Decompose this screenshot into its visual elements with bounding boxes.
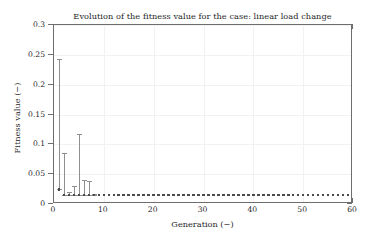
errorbar-cap: [62, 153, 67, 154]
data-marker: [322, 194, 325, 197]
data-marker: [177, 194, 180, 197]
data-marker: [307, 194, 310, 197]
x-tick-mark-top: [352, 24, 353, 29]
data-marker: [262, 194, 265, 197]
data-marker: [347, 194, 350, 197]
data-marker: [212, 194, 215, 197]
x-tick-label: 60: [337, 205, 367, 214]
x-tick-label: 30: [188, 205, 218, 214]
data-marker: [122, 194, 125, 197]
data-marker: [227, 194, 230, 197]
data-marker: [147, 194, 150, 197]
gridline-horizontal: [54, 115, 351, 116]
y-tick-label: 0.15: [5, 109, 45, 118]
data-marker: [237, 194, 240, 197]
data-marker: [222, 194, 225, 197]
data-marker: [167, 194, 170, 197]
plot-area: [53, 24, 352, 203]
x-tick-label: 40: [237, 205, 267, 214]
data-marker: [58, 188, 61, 191]
errorbar-cap: [57, 59, 62, 60]
data-marker: [282, 194, 285, 197]
data-marker: [103, 194, 106, 197]
x-tick-mark: [352, 198, 353, 203]
data-marker: [337, 194, 340, 197]
x-tick-label: 20: [138, 205, 168, 214]
data-marker: [108, 194, 111, 197]
data-marker: [327, 194, 330, 197]
data-marker: [83, 194, 86, 197]
data-marker: [232, 194, 235, 197]
y-tick-mark: [48, 203, 53, 204]
gridline-horizontal: [54, 144, 351, 145]
data-marker: [113, 194, 116, 197]
y-tick-label: 0.2: [5, 79, 45, 88]
gridline-vertical: [154, 25, 155, 202]
data-marker: [272, 194, 275, 197]
data-marker: [207, 194, 210, 197]
data-marker: [172, 194, 175, 197]
data-marker: [287, 194, 290, 197]
errorbar-cap: [77, 134, 82, 135]
x-tick-label: 50: [287, 205, 317, 214]
gridline-vertical: [104, 25, 105, 202]
data-marker: [68, 194, 71, 197]
gridline-horizontal: [54, 174, 351, 175]
data-marker: [252, 194, 255, 197]
data-marker: [312, 194, 315, 197]
data-marker: [63, 194, 66, 197]
data-marker: [242, 194, 245, 197]
data-marker: [117, 194, 120, 197]
data-marker: [98, 194, 101, 197]
errorbar-stem: [64, 153, 65, 195]
data-marker: [127, 194, 130, 197]
gridline-vertical: [204, 25, 205, 202]
data-marker: [332, 194, 335, 197]
data-marker: [317, 194, 320, 197]
data-marker: [292, 194, 295, 197]
y-tick-label: 0.25: [5, 49, 45, 58]
data-marker: [257, 194, 260, 197]
data-marker: [88, 194, 91, 197]
data-marker: [142, 194, 145, 197]
x-tick-label: 10: [88, 205, 118, 214]
figure-canvas: Evolution of the fitness value for the c…: [0, 0, 371, 244]
y-tick-label: 0.1: [5, 139, 45, 148]
gridline-vertical: [303, 25, 304, 202]
gridline-horizontal: [54, 55, 351, 56]
data-marker: [267, 194, 270, 197]
gridline-horizontal: [54, 85, 351, 86]
chart-title: Evolution of the fitness value for the c…: [53, 11, 352, 21]
data-marker: [342, 194, 345, 197]
gridline-vertical: [253, 25, 254, 202]
errorbar-cap: [87, 181, 92, 182]
data-marker: [73, 194, 76, 197]
x-tick-label: 0: [38, 205, 68, 214]
data-marker: [202, 194, 205, 197]
x-axis-label: Generation (−): [53, 219, 352, 229]
data-marker: [137, 194, 140, 197]
y-axis-label: Fitness value (−): [12, 58, 22, 178]
data-marker: [197, 194, 200, 197]
errorbar-stem: [84, 180, 85, 195]
data-marker: [247, 194, 250, 197]
y-tick-mark-right: [347, 203, 352, 204]
y-tick-label: 0.3: [5, 20, 45, 29]
data-marker: [302, 194, 305, 197]
data-marker: [187, 194, 190, 197]
data-marker: [152, 194, 155, 197]
data-marker: [157, 194, 160, 197]
data-marker: [93, 194, 96, 197]
errorbar-stem: [79, 134, 80, 194]
errorbar-cap: [72, 186, 77, 187]
data-marker: [132, 194, 135, 197]
data-marker: [78, 194, 81, 197]
data-marker: [297, 194, 300, 197]
data-marker: [277, 194, 280, 197]
y-tick-label: 0.05: [5, 169, 45, 178]
gridline-horizontal: [54, 25, 351, 26]
errorbar-stem: [59, 59, 60, 189]
data-marker: [192, 194, 195, 197]
data-marker: [162, 194, 165, 197]
data-marker: [182, 194, 185, 197]
